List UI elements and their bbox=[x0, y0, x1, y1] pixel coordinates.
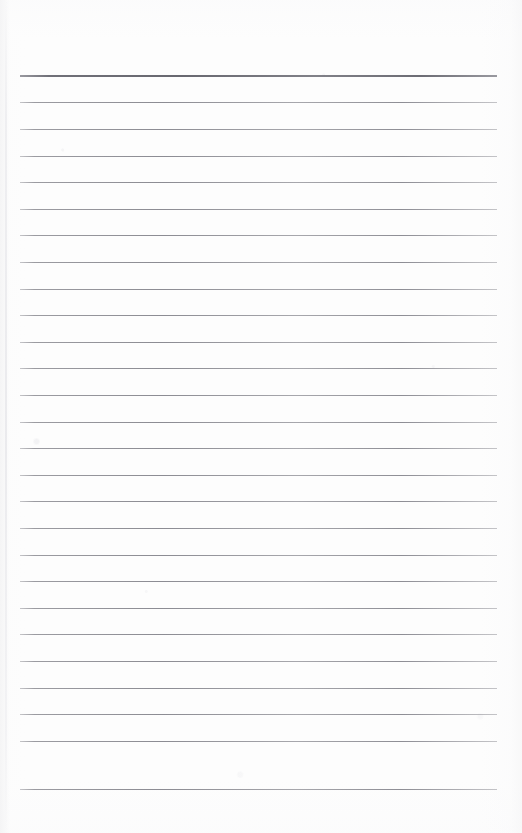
ruled-line bbox=[20, 262, 497, 263]
ruled-line bbox=[20, 475, 497, 476]
ruled-line bbox=[20, 289, 497, 290]
rule-ink bbox=[20, 156, 497, 157]
ruled-line bbox=[20, 209, 497, 210]
ruled-line bbox=[20, 661, 497, 662]
rule-ink bbox=[20, 714, 497, 715]
ruled-line bbox=[20, 129, 497, 130]
ruled-line bbox=[20, 102, 497, 103]
rule-ink bbox=[20, 608, 497, 609]
rule-ink bbox=[20, 422, 497, 423]
rule-ink bbox=[20, 129, 497, 130]
ruled-line bbox=[20, 342, 497, 343]
rule-ink bbox=[20, 581, 497, 582]
ruled-line bbox=[20, 581, 497, 582]
rule-ink bbox=[20, 555, 497, 556]
rule-ink bbox=[20, 501, 497, 502]
ruled-line bbox=[20, 741, 497, 742]
ruled-line bbox=[20, 714, 497, 715]
ruled-line bbox=[20, 789, 497, 790]
ruled-line bbox=[20, 422, 497, 423]
rule-ink bbox=[20, 315, 497, 316]
rule-ink bbox=[20, 182, 497, 183]
ruled-line bbox=[20, 608, 497, 609]
rule-ink bbox=[20, 741, 497, 742]
ruled-line bbox=[20, 235, 497, 236]
rule-ink bbox=[20, 209, 497, 210]
paper-grain-texture bbox=[0, 0, 522, 833]
rule-ink bbox=[20, 289, 497, 290]
rule-ink bbox=[20, 368, 497, 369]
rule-ink bbox=[20, 342, 497, 343]
ruled-line bbox=[20, 688, 497, 689]
rule-ink bbox=[20, 102, 497, 103]
rule-ink bbox=[20, 262, 497, 263]
ruled-line bbox=[20, 368, 497, 369]
ruled-line bbox=[20, 156, 497, 157]
rule-ink bbox=[20, 789, 497, 790]
rule-ink bbox=[20, 448, 497, 449]
ruled-line bbox=[20, 501, 497, 502]
sheet-left-edge bbox=[5, 0, 7, 833]
rule-ink bbox=[20, 235, 497, 236]
ruled-line bbox=[20, 182, 497, 183]
rule-ink bbox=[20, 661, 497, 662]
ruled-line bbox=[20, 395, 497, 396]
header-rule bbox=[20, 75, 497, 77]
rule-ink bbox=[20, 395, 497, 396]
rule-ink bbox=[20, 688, 497, 689]
ruled-line bbox=[20, 448, 497, 449]
rule-ink bbox=[20, 528, 497, 529]
rule-ink bbox=[20, 75, 497, 77]
ruled-line bbox=[20, 528, 497, 529]
ruled-line bbox=[20, 634, 497, 635]
ruled-line bbox=[20, 555, 497, 556]
paper-surface bbox=[0, 0, 522, 833]
rule-ink bbox=[20, 475, 497, 476]
rule-ink bbox=[20, 634, 497, 635]
ruled-line bbox=[20, 315, 497, 316]
paper-page bbox=[0, 0, 522, 833]
